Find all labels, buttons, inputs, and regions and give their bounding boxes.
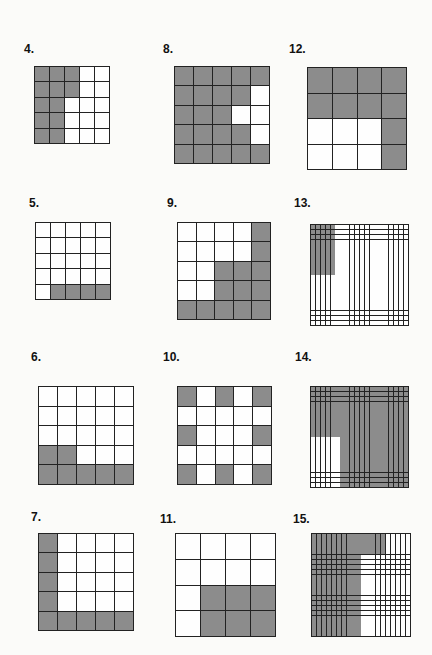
shaded-cell [355,432,359,436]
shaded-cell [322,565,326,570]
empty-cell [321,290,325,294]
empty-cell [379,230,383,234]
shaded-cell [370,452,374,456]
empty-cell [340,250,344,254]
empty-cell [401,590,405,595]
shaded-cell [342,631,346,636]
shaded-cell [365,467,369,471]
shaded-cell [251,611,275,636]
shaded-cell [332,575,336,580]
empty-cell [345,300,349,304]
empty-cell [355,311,359,315]
empty-cell [58,592,76,610]
empty-cell [360,230,364,234]
empty-cell [386,539,390,544]
empty-cell [360,225,364,229]
shaded-cell [337,565,341,570]
empty-cell [350,260,354,264]
shaded-cell [404,442,408,446]
shaded-cell [39,612,57,630]
empty-cell [376,611,380,616]
empty-cell [176,534,200,559]
empty-cell [345,290,349,294]
shaded-cell [370,422,374,426]
shaded-cell [232,125,250,143]
shaded-cell [370,432,374,436]
empty-cell [95,129,109,143]
empty-cell [65,113,79,127]
empty-cell [316,280,320,284]
empty-cell [316,300,320,304]
empty-cell [391,606,395,611]
shaded-cell [322,570,326,575]
empty-cell [401,616,405,621]
empty-cell [399,230,403,234]
empty-cell [358,145,382,170]
shaded-cell [332,534,336,539]
empty-cell [345,255,349,259]
empty-cell [360,255,364,259]
empty-cell [370,265,374,269]
empty-cell [406,544,410,549]
shaded-cell [234,262,252,280]
shaded-cell [326,432,330,436]
empty-cell [345,280,349,284]
shaded-cell [366,539,370,544]
shaded-cell [355,407,359,411]
shaded-cell [35,82,49,96]
shaded-cell [321,407,325,411]
empty-cell [361,606,365,611]
empty-cell [335,280,339,284]
empty-cell [381,596,385,601]
shaded-grid [310,224,409,326]
empty-cell [311,447,315,451]
shaded-cell [322,585,326,590]
empty-cell [316,290,320,294]
empty-cell [386,534,390,539]
empty-cell [401,544,405,549]
empty-cell [39,426,57,445]
empty-cell [381,585,385,590]
problem-number: 6. [31,350,41,364]
empty-cell [365,305,369,309]
shaded-cell [322,611,326,616]
shaded-cell [316,432,320,436]
shaded-cell [404,412,408,416]
shaded-cell [178,465,196,484]
shaded-cell [394,387,398,391]
empty-cell [331,462,335,466]
shaded-cell [370,483,374,487]
shaded-cell [326,402,330,406]
empty-cell [316,305,320,309]
empty-cell [350,240,354,244]
empty-cell [326,457,330,461]
empty-cell [394,311,398,315]
empty-cell [345,250,349,254]
shaded-cell [350,478,354,482]
shaded-cell [326,387,330,391]
shaded-cell [321,235,325,239]
empty-cell [350,250,354,254]
shaded-cell [335,402,339,406]
empty-cell [326,295,330,299]
empty-cell [335,300,339,304]
shaded-cell [347,621,351,626]
empty-cell [391,621,395,626]
empty-cell [370,290,374,294]
shaded-cell [355,447,359,451]
shaded-grid [35,222,111,300]
shaded-cell [365,422,369,426]
shaded-cell [384,427,388,431]
empty-cell [361,601,365,606]
empty-cell [321,316,325,320]
shaded-cell [345,467,349,471]
empty-cell [384,305,388,309]
shaded-cell [253,426,271,445]
shaded-cell [340,427,344,431]
empty-cell [96,446,114,465]
shaded-cell [365,432,369,436]
empty-cell [350,230,354,234]
empty-cell [374,240,378,244]
shaded-cell [321,392,325,396]
empty-cell [391,534,395,539]
